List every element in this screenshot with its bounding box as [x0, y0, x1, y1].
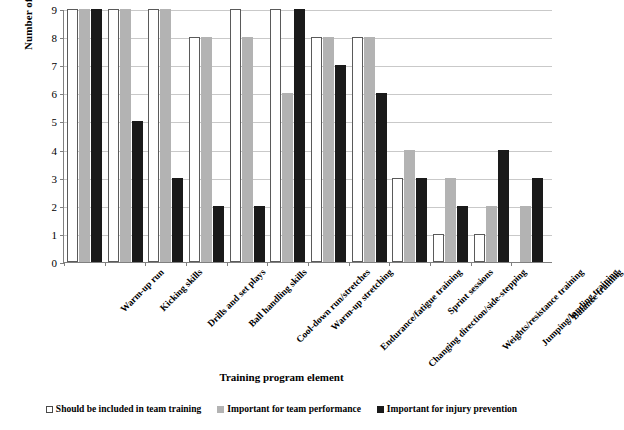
- y-axis-tick-label: 3: [52, 173, 58, 185]
- bar: [67, 9, 78, 262]
- bar-group: [186, 10, 227, 262]
- bar: [172, 178, 183, 262]
- bar-group: [267, 10, 308, 262]
- bar: [242, 37, 253, 262]
- bar: [498, 150, 509, 262]
- bar: [352, 37, 363, 262]
- y-axis-title: Number of coaches who agreed: [22, 0, 34, 50]
- bar: [392, 178, 403, 262]
- y-axis-tick-label: 8: [52, 32, 58, 44]
- bar-group: [430, 10, 471, 262]
- bar: [270, 9, 281, 262]
- legend-label: Should be included in team training: [56, 404, 201, 414]
- bar: [79, 9, 90, 262]
- legend-swatch-icon: [217, 406, 224, 413]
- y-axis-tick-label: 7: [52, 60, 58, 72]
- plot-area: Number of coaches who agreed 0123456789: [63, 10, 552, 263]
- y-axis-tick-label: 0: [52, 257, 58, 269]
- bar-group: [145, 10, 186, 262]
- legend-item: Should be included in team training: [46, 404, 201, 414]
- y-axis-tick-label: 2: [52, 201, 58, 213]
- bar: [376, 93, 387, 262]
- bar: [230, 9, 241, 262]
- bar: [445, 178, 456, 262]
- bar: [404, 150, 415, 262]
- bar-groups: [64, 10, 552, 262]
- bar: [457, 206, 468, 262]
- legend-swatch-icon: [377, 406, 384, 413]
- bar-group: [227, 10, 268, 262]
- bar-group: [64, 10, 105, 262]
- bar: [364, 37, 375, 262]
- bar: [520, 206, 531, 262]
- bar: [474, 234, 485, 262]
- legend-label: Important for injury prevention: [387, 404, 517, 414]
- chart-legend: Should be included in team trainingImpor…: [0, 404, 563, 414]
- legend-label: Important for team performance: [227, 404, 361, 414]
- bar-group: [308, 10, 349, 262]
- y-axis-tick-label: 5: [52, 116, 58, 128]
- bar-group: [471, 10, 512, 262]
- bar: [108, 9, 119, 262]
- bar: [254, 206, 265, 262]
- y-axis-tick-label: 1: [52, 229, 58, 241]
- bar: [148, 9, 159, 262]
- bar: [213, 206, 224, 262]
- bar-group: [349, 10, 390, 262]
- bar: [282, 93, 293, 262]
- legend-item: Important for team performance: [217, 404, 361, 414]
- bar: [91, 9, 102, 262]
- legend-swatch-icon: [46, 406, 53, 413]
- bar: [323, 37, 334, 262]
- bar: [416, 178, 427, 262]
- y-axis-tick-label: 4: [52, 145, 58, 157]
- x-axis-category-labels: Warm-up runKicking skillsDrills and set …: [63, 263, 552, 363]
- legend-item: Important for injury prevention: [377, 404, 517, 414]
- bar: [486, 206, 497, 262]
- bar: [120, 9, 131, 262]
- bar: [189, 37, 200, 262]
- bar: [132, 121, 143, 262]
- bar: [311, 37, 322, 262]
- bar: [335, 65, 346, 262]
- bar: [160, 9, 171, 262]
- bar: [201, 37, 212, 262]
- bar: [532, 178, 543, 262]
- y-axis-tick-label: 6: [52, 88, 58, 100]
- x-axis-title: Training program element: [0, 371, 563, 383]
- y-axis-tick-label: 9: [52, 4, 58, 16]
- bar-group: [389, 10, 430, 262]
- bar: [433, 234, 444, 262]
- bar-group: [511, 10, 552, 262]
- bar-group: [105, 10, 146, 262]
- bar: [294, 9, 305, 262]
